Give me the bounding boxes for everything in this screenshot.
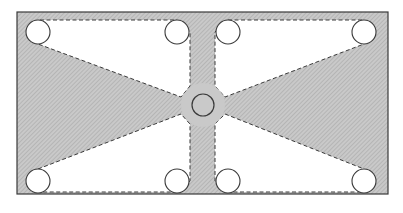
- mounting-hole-2: [165, 20, 189, 44]
- center-hub: [181, 83, 225, 127]
- mounting-hole-1: [26, 20, 50, 44]
- plate-diagram: [0, 0, 403, 213]
- mounting-hole-3: [216, 20, 240, 44]
- mounting-hole-5: [26, 169, 50, 193]
- mounting-hole-7: [216, 169, 240, 193]
- hub-boss: [181, 83, 225, 127]
- mounting-hole-8: [352, 169, 376, 193]
- mounting-hole-4: [352, 20, 376, 44]
- mounting-hole-6: [165, 169, 189, 193]
